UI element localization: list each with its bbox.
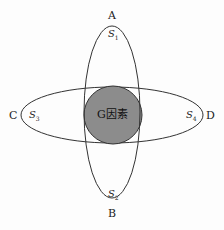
label-c: C xyxy=(9,110,17,121)
label-a: A xyxy=(108,10,116,21)
label-b: B xyxy=(108,208,116,219)
g-factor-label: G因素 xyxy=(97,109,128,120)
region-s2: S2 xyxy=(108,189,119,201)
diagram: A B C D S1 S2 S3 S4 G因素 xyxy=(0,0,224,230)
region-s3: S3 xyxy=(29,110,40,122)
label-d: D xyxy=(206,110,215,121)
region-s1: S1 xyxy=(108,29,119,41)
region-s4: S4 xyxy=(186,110,197,122)
